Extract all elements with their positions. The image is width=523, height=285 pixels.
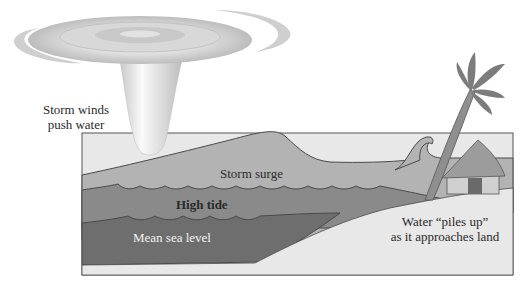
piles-up-line-2: as it approaches land	[380, 229, 510, 244]
storm-winds-label: Storm winds push water	[36, 102, 116, 132]
storm-winds-line-2: push water	[36, 117, 116, 132]
high-tide-label: High tide	[176, 197, 228, 212]
mean-sea-level-label: Mean sea level	[133, 230, 211, 245]
storm-surge-label: Storm surge	[220, 166, 283, 181]
storm-winds-line-1: Storm winds	[36, 102, 116, 117]
piles-up-line-1: Water “piles up”	[380, 214, 510, 229]
piles-up-label: Water “piles up” as it approaches land	[380, 214, 510, 244]
